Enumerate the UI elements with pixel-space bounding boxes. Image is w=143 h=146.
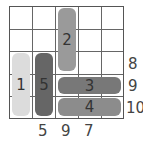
piece-label: 4 [85, 98, 95, 116]
row-clue: 9 [128, 79, 138, 94]
row-clue: 10 [126, 101, 143, 116]
piece-1[interactable]: 1 [12, 53, 30, 116]
col-clue: 5 [38, 124, 48, 139]
grid-line [55, 7, 56, 118]
piece-3[interactable]: 3 [58, 77, 121, 94]
grid-line [32, 7, 33, 118]
piece-label: 5 [39, 76, 49, 94]
col-clue: 9 [61, 124, 71, 139]
piece-label: 3 [85, 77, 95, 95]
row-clue: 8 [128, 57, 138, 72]
piece-4[interactable]: 4 [58, 98, 121, 116]
col-clue: 7 [84, 124, 94, 139]
piece-2[interactable]: 2 [58, 8, 76, 71]
piece-5[interactable]: 5 [35, 53, 53, 116]
piece-label: 1 [16, 76, 26, 94]
piece-label: 2 [62, 31, 72, 49]
